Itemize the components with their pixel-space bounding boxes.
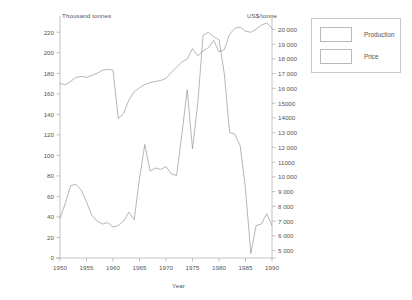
right-tick-label: 8 000 xyxy=(278,203,293,210)
right-tick-label: 19 000 xyxy=(278,41,297,48)
left-tick-label: 140 xyxy=(44,111,54,118)
x-tick-label: 1965 xyxy=(129,264,151,271)
left-tick-label: 80 xyxy=(47,172,54,179)
x-tick-label: 1985 xyxy=(235,264,257,271)
legend-item-production[interactable]: Production xyxy=(320,26,395,43)
legend-swatch-price xyxy=(320,49,352,64)
left-tick-label: 180 xyxy=(44,70,54,77)
right-tick-label: 13 000 xyxy=(278,129,297,136)
left-tick-label: 220 xyxy=(44,29,54,36)
x-tick-label: 1975 xyxy=(182,264,204,271)
left-tick-label: 200 xyxy=(44,49,54,56)
right-tick-label: 16 000 xyxy=(278,85,297,92)
x-tick-label: 1950 xyxy=(49,264,71,271)
right-tick-label: 9 000 xyxy=(278,188,293,195)
x-tick-label: 1980 xyxy=(208,264,230,271)
right-tick-label: 10 000 xyxy=(278,173,297,180)
legend-item-price[interactable]: Price xyxy=(320,48,379,65)
series-line-price xyxy=(60,32,272,253)
left-tick-label: 20 xyxy=(47,234,54,241)
right-tick-label: 18 000 xyxy=(278,55,297,62)
left-tick-label: 100 xyxy=(44,152,54,159)
left-tick-label: 120 xyxy=(44,131,54,138)
right-tick-label: 5 000 xyxy=(278,247,293,254)
right-tick-label: 11000 xyxy=(278,159,295,166)
left-tick-label: 160 xyxy=(44,90,54,97)
right-tick-label: 17 000 xyxy=(278,70,297,77)
left-tick-label: 60 xyxy=(47,193,54,200)
legend-label-production: Production xyxy=(364,31,395,38)
tick-marks xyxy=(57,29,276,261)
x-tick-label: 1990 xyxy=(261,264,283,271)
chart-figure: Thousand tonnes US$/tonne Year 020406080… xyxy=(0,0,412,300)
axis-lines xyxy=(56,16,276,258)
legend-label-price: Price xyxy=(364,53,379,60)
right-tick-label: 20 000 xyxy=(278,26,297,33)
x-tick-label: 1960 xyxy=(102,264,124,271)
left-tick-label: 40 xyxy=(47,213,54,220)
right-tick-label: 15000 xyxy=(278,100,295,107)
right-tick-label: 14000 xyxy=(278,114,295,121)
legend-swatch-production xyxy=(320,27,352,42)
left-tick-label: 0 xyxy=(51,254,54,261)
series-line-production xyxy=(60,23,272,118)
right-tick-label: 12 000 xyxy=(278,144,297,151)
right-tick-label: 6 000 xyxy=(278,232,293,239)
right-tick-label: 7 000 xyxy=(278,218,293,225)
chart-legend: Production Price xyxy=(311,18,401,73)
x-tick-label: 1970 xyxy=(155,264,177,271)
x-tick-label: 1955 xyxy=(76,264,98,271)
